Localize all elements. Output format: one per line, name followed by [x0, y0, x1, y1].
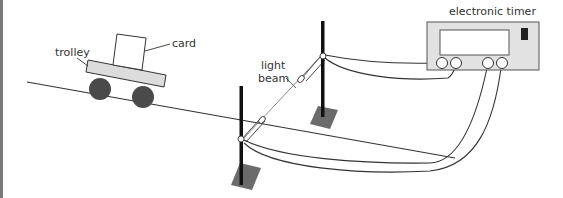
wire-pole2-a [325, 55, 437, 63]
card [113, 34, 146, 70]
timer-socket-2 [451, 58, 462, 69]
trolley-wheel-front [89, 78, 111, 100]
card-leader [145, 44, 170, 51]
diagram-frame: trolley card light beam electro [0, 0, 563, 198]
light-beam-label-1: light [261, 59, 286, 72]
timer-display [440, 30, 509, 55]
timer-socket-1 [437, 58, 448, 69]
trolley-label: trolley [55, 46, 90, 59]
pole-1-clamp [238, 136, 244, 142]
card-label: card [172, 37, 196, 50]
experiment-diagram: trolley card light beam electro [0, 0, 563, 198]
trolley-wheel-rear [132, 86, 154, 108]
pole-1 [240, 86, 244, 185]
light-beam-label-2: beam [258, 72, 289, 85]
timer-indicator [521, 28, 528, 40]
pole-1-base [231, 163, 261, 190]
trolley-leader [77, 58, 88, 66]
pole-2 [321, 21, 325, 117]
timer-label: electronic timer [449, 5, 536, 18]
timer-socket-4 [497, 58, 508, 69]
timer-socket-3 [483, 58, 494, 69]
